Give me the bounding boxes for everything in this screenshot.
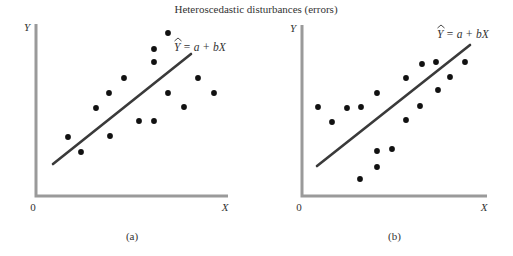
data-point bbox=[358, 104, 364, 110]
data-point bbox=[344, 105, 350, 111]
data-point bbox=[211, 90, 217, 96]
data-point bbox=[329, 119, 335, 125]
x-axis-label: X bbox=[480, 201, 489, 213]
data-point bbox=[417, 103, 423, 109]
data-point bbox=[374, 90, 380, 96]
data-point bbox=[315, 104, 321, 110]
axes-lines bbox=[302, 25, 487, 196]
data-point bbox=[403, 75, 409, 81]
regression-equation-label: Y= a + bX bbox=[437, 25, 490, 40]
data-point bbox=[151, 59, 157, 65]
data-point bbox=[419, 61, 425, 67]
data-point bbox=[78, 149, 84, 155]
data-point bbox=[136, 118, 142, 124]
data-point bbox=[165, 90, 171, 96]
data-point bbox=[357, 176, 363, 182]
x-axis-label: X bbox=[221, 201, 230, 213]
data-point bbox=[106, 90, 112, 96]
panel-b-scatter-plot: YX0(b)Y= a + bX bbox=[290, 22, 490, 243]
data-point bbox=[121, 75, 127, 81]
panel-a-scatter-plot: YX0(a)Y= a + bX bbox=[24, 21, 230, 243]
origin-label: 0 bbox=[30, 201, 36, 213]
data-point bbox=[435, 87, 441, 93]
data-point bbox=[93, 105, 99, 111]
data-point bbox=[65, 134, 71, 140]
panel-caption: (b) bbox=[388, 230, 401, 243]
data-point bbox=[389, 146, 395, 152]
origin-label: 0 bbox=[296, 201, 302, 213]
y-axis-label: Y bbox=[24, 21, 32, 33]
data-point bbox=[374, 164, 380, 170]
data-point bbox=[462, 59, 468, 65]
data-point bbox=[195, 75, 201, 81]
figure-title: Heteroscedastic disturbances (errors) bbox=[174, 3, 337, 16]
equation-rhs: = a + bX bbox=[446, 28, 490, 40]
data-point bbox=[151, 118, 157, 124]
y-hat-symbol: Y bbox=[174, 41, 182, 53]
data-point bbox=[107, 133, 113, 139]
y-hat-symbol: Y bbox=[437, 28, 445, 40]
data-point bbox=[447, 74, 453, 80]
equation-rhs: = a + bX bbox=[183, 41, 227, 53]
data-point bbox=[151, 46, 157, 52]
data-point bbox=[181, 104, 187, 110]
regression-line bbox=[53, 54, 191, 164]
data-point bbox=[403, 117, 409, 123]
y-axis-label: Y bbox=[290, 22, 298, 34]
data-point bbox=[165, 30, 171, 36]
data-point bbox=[374, 148, 380, 154]
heteroscedasticity-figure: Heteroscedastic disturbances (errors) YX… bbox=[0, 0, 513, 256]
panel-caption: (a) bbox=[126, 230, 139, 243]
data-point bbox=[433, 59, 439, 65]
regression-equation-label: Y= a + bX bbox=[174, 38, 227, 53]
